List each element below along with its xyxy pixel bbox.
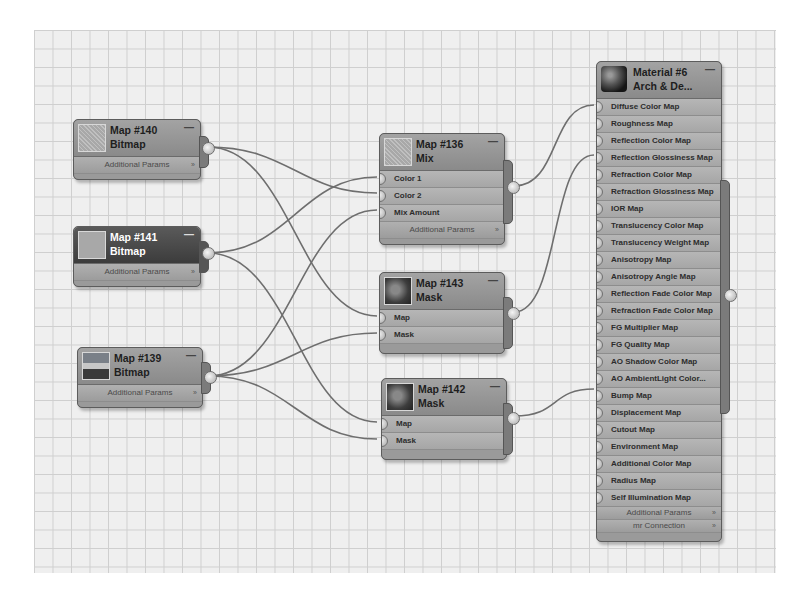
expand-icon[interactable]: » xyxy=(712,507,716,519)
output-socket[interactable] xyxy=(507,307,520,320)
collapse-icon[interactable]: — xyxy=(184,229,194,240)
input-socket[interactable] xyxy=(597,458,603,470)
node-map-140[interactable]: Map #140Bitmap — Additional Params» xyxy=(73,119,201,180)
input-socket[interactable] xyxy=(597,203,603,215)
input-socket[interactable] xyxy=(597,322,603,334)
input-refraction-color-map[interactable]: Refraction Color Map xyxy=(597,167,721,184)
collapse-icon[interactable]: — xyxy=(488,136,498,147)
output-socket[interactable] xyxy=(724,289,737,302)
input-socket[interactable] xyxy=(597,356,603,368)
additional-params-row[interactable]: Additional Params» xyxy=(74,264,200,281)
collapse-icon[interactable]: — xyxy=(184,122,194,133)
expand-icon[interactable]: » xyxy=(193,385,197,401)
additional-params-row[interactable]: Additional Params» xyxy=(380,222,504,239)
input-radius-map[interactable]: Radius Map xyxy=(597,473,721,490)
input-diffuse-color-map[interactable]: Diffuse Color Map xyxy=(597,99,721,116)
node-map-139[interactable]: Map #139Bitmap — Additional Params» xyxy=(77,347,203,408)
collapse-icon[interactable]: — xyxy=(705,64,715,75)
input-reflection-glossiness-map[interactable]: Reflection Glossiness Map xyxy=(597,150,721,167)
output-socket[interactable] xyxy=(202,247,215,260)
params-label: Additional Params xyxy=(108,388,173,397)
input-fg-multiplier-map[interactable]: FG Multiplier Map xyxy=(597,320,721,337)
input-socket[interactable] xyxy=(380,190,386,202)
input-socket[interactable] xyxy=(597,254,603,266)
output-socket[interactable] xyxy=(202,142,215,155)
input-socket[interactable] xyxy=(597,101,603,113)
input-socket[interactable] xyxy=(380,329,386,341)
input-mask[interactable]: Mask xyxy=(380,327,504,344)
additional-params-row[interactable]: Additional Params» xyxy=(597,507,721,520)
input-ao-ambientlight-color[interactable]: AO AmbientLight Color... xyxy=(597,371,721,388)
input-socket[interactable] xyxy=(597,424,603,436)
input-ior-map[interactable]: IOR Map xyxy=(597,201,721,218)
expand-icon[interactable]: » xyxy=(191,264,195,280)
input-socket[interactable] xyxy=(597,237,603,249)
input-socket[interactable] xyxy=(597,169,603,181)
input-socket[interactable] xyxy=(382,435,388,447)
input-map[interactable]: Map xyxy=(382,416,506,433)
input-anisotropy-angle-map[interactable]: Anisotropy Angle Map xyxy=(597,269,721,286)
input-socket[interactable] xyxy=(597,305,603,317)
node-map-136-mix[interactable]: Map #136Mix — Color 1 Color 2 Mix Amount… xyxy=(379,133,505,245)
output-socket[interactable] xyxy=(507,181,520,194)
input-socket[interactable] xyxy=(380,207,386,219)
input-translucency-weight-map[interactable]: Translucency Weight Map xyxy=(597,235,721,252)
input-socket[interactable] xyxy=(597,288,603,300)
input-ao-shadow-color-map[interactable]: AO Shadow Color Map xyxy=(597,354,721,371)
input-mask[interactable]: Mask xyxy=(382,433,506,450)
additional-params-row[interactable]: Additional Params» xyxy=(74,157,200,174)
input-self-illumination-map[interactable]: Self Illumination Map xyxy=(597,490,721,507)
node-map-142-mask[interactable]: Map #142Mask — Map Mask xyxy=(381,378,507,460)
input-socket[interactable] xyxy=(597,186,603,198)
input-fg-quality-map[interactable]: FG Quality Map xyxy=(597,337,721,354)
input-socket[interactable] xyxy=(382,418,388,430)
input-label: FG Multiplier Map xyxy=(611,323,678,332)
collapse-icon[interactable]: — xyxy=(186,350,196,361)
input-socket[interactable] xyxy=(597,407,603,419)
input-mix-amount[interactable]: Mix Amount xyxy=(380,205,504,222)
additional-params-row[interactable]: Additional Params» xyxy=(78,385,202,402)
input-socket[interactable] xyxy=(380,312,386,324)
input-socket[interactable] xyxy=(597,441,603,453)
node-material-6[interactable]: Material #6Arch & De... — Diffuse Color … xyxy=(596,61,722,542)
input-refraction-glossiness-map[interactable]: Refraction Glossiness Map xyxy=(597,184,721,201)
node-map-143-mask[interactable]: Map #143Mask — Map Mask xyxy=(379,272,505,354)
input-socket[interactable] xyxy=(597,373,603,385)
input-socket[interactable] xyxy=(380,173,386,185)
input-socket[interactable] xyxy=(597,271,603,283)
output-socket[interactable] xyxy=(204,371,217,384)
expand-icon[interactable]: » xyxy=(712,520,716,532)
input-reflection-fade-color-map[interactable]: Reflection Fade Color Map xyxy=(597,286,721,303)
input-displacement-map[interactable]: Displacement Map xyxy=(597,405,721,422)
collapse-icon[interactable]: — xyxy=(490,381,500,392)
input-socket[interactable] xyxy=(597,152,603,164)
input-refraction-fade-color-map[interactable]: Refraction Fade Color Map xyxy=(597,303,721,320)
mr-connection-row[interactable]: mr Connection» xyxy=(597,520,721,533)
input-cutout-map[interactable]: Cutout Map xyxy=(597,422,721,439)
node-footer xyxy=(74,174,200,179)
input-socket[interactable] xyxy=(597,492,603,504)
input-translucency-color-map[interactable]: Translucency Color Map xyxy=(597,218,721,235)
input-label: Mix Amount xyxy=(394,208,439,217)
input-socket[interactable] xyxy=(597,390,603,402)
input-socket[interactable] xyxy=(597,220,603,232)
input-map[interactable]: Map xyxy=(380,310,504,327)
collapse-icon[interactable]: — xyxy=(488,275,498,286)
input-color-2[interactable]: Color 2 xyxy=(380,188,504,205)
output-socket[interactable] xyxy=(507,412,520,425)
params-label: Additional Params xyxy=(627,508,692,517)
input-additional-color-map[interactable]: Additional Color Map xyxy=(597,456,721,473)
expand-icon[interactable]: » xyxy=(191,157,195,173)
input-color-1[interactable]: Color 1 xyxy=(380,171,504,188)
input-anisotropy-map[interactable]: Anisotropy Map xyxy=(597,252,721,269)
input-socket[interactable] xyxy=(597,475,603,487)
input-bump-map[interactable]: Bump Map xyxy=(597,388,721,405)
input-socket[interactable] xyxy=(597,118,603,130)
input-socket[interactable] xyxy=(597,135,603,147)
node-map-141[interactable]: Map #141Bitmap — Additional Params» xyxy=(73,226,201,287)
input-reflection-color-map[interactable]: Reflection Color Map xyxy=(597,133,721,150)
input-roughness-map[interactable]: Roughness Map xyxy=(597,116,721,133)
input-environment-map[interactable]: Environment Map xyxy=(597,439,721,456)
expand-icon[interactable]: » xyxy=(495,222,499,238)
input-socket[interactable] xyxy=(597,339,603,351)
